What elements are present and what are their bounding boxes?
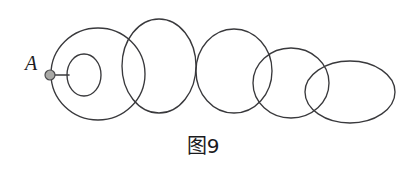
pivot-point-a-dot (45, 70, 55, 80)
circle-4 (253, 48, 329, 118)
figure-container: A 图9 (0, 0, 406, 175)
ellipse-5 (305, 61, 395, 123)
circle-3 (196, 29, 272, 113)
point-label-a: A (23, 52, 38, 74)
circle-2 (122, 19, 196, 113)
figure-caption: 图9 (0, 133, 406, 159)
inner-ellipse-small (67, 54, 101, 96)
outer-ellipse-1 (51, 28, 145, 120)
